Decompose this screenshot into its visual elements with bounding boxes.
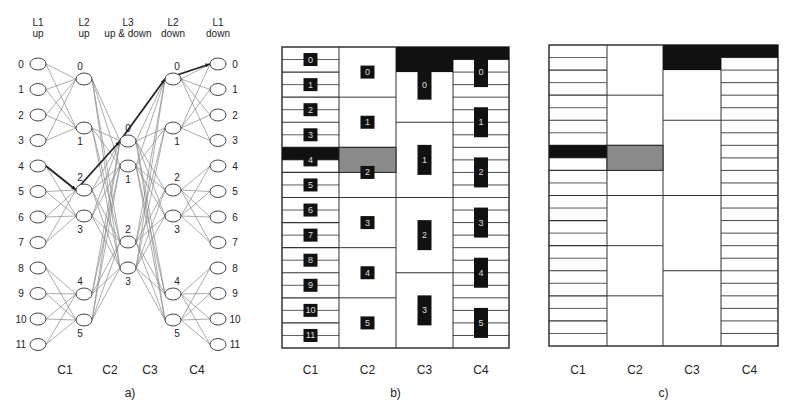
node-l2-up [76,184,92,196]
column-label: C2 [102,363,118,377]
node-label-l1-up: 11 [16,339,27,350]
node-l1-up [30,211,46,223]
node-l1-down [210,186,226,198]
c4-top-block [721,45,778,58]
stage-header-line1: L1 [212,17,224,28]
column-label: C4 [189,363,205,377]
stage-header-line1: L2 [167,17,179,28]
node-label-l1-up: 3 [18,135,24,146]
edge [92,166,120,320]
edge [136,141,165,320]
edge [181,115,210,128]
c3-label: 1 [422,155,427,165]
node-l2-down [165,184,181,196]
node-label-l1-down: 1 [232,84,238,95]
node-label-l1-down: 6 [232,212,238,223]
edge [46,128,76,141]
node-label-l2-down: 4 [174,276,180,287]
node-l1-down [210,211,226,223]
c1-label: 8 [308,255,313,265]
panel-caption: a) [125,386,136,400]
node-label-l1-up: 0 [18,59,24,70]
c3-top-block [396,47,453,72]
node-label-l1-down: 7 [232,237,238,248]
c1-label: 6 [308,205,313,215]
node-label-l2-down: 3 [174,224,180,235]
node-l1-up [30,135,46,147]
edge [136,242,165,320]
edge [46,64,76,128]
node-label-l1-up: 9 [18,288,24,299]
c1-label: 0 [308,55,313,65]
column-label: C2 [627,363,643,377]
node-l2-up [76,122,92,134]
edge [46,115,76,128]
edge [46,190,76,217]
node-label-l1-down: 0 [232,59,238,70]
node-label-l2-up: 1 [77,136,83,147]
node-l1-down [210,135,226,147]
node-l1-up [30,58,46,70]
edge [46,216,76,243]
c1-label: 4 [308,155,313,165]
node-l2-up [76,210,92,222]
edge [136,166,165,320]
panel-a-network-diagram: L1upL2upL3up & downL2downL1down012345678… [15,17,241,401]
panel-caption: b) [390,386,401,400]
column-label: C2 [360,363,376,377]
grid-lines [282,47,509,348]
panel-b-labeled-grid: 012345678910110123450123012345C1C2C3C4b) [282,47,509,400]
node-label-l1-down: 10 [229,314,241,325]
c2-label: 1 [365,117,370,127]
c1-label: 9 [308,280,313,290]
node-label-l1-down: 8 [232,263,238,274]
node-l1-down [210,84,226,96]
panel-caption: c) [659,386,669,400]
node-label-l2-down: 0 [174,61,180,72]
c4-label: 5 [478,318,483,328]
edge [136,79,165,141]
c1-label: 3 [308,130,313,140]
node-l1-down [210,160,226,172]
node-label-l1-down: 2 [232,110,238,121]
node-l1-up [30,262,46,274]
node-l1-down [210,58,226,70]
c3-label: 0 [422,80,427,90]
edge [181,166,210,190]
node-l2-down [165,210,181,222]
node-label-l1-down: 11 [230,339,241,350]
stage-header-line2: up [32,28,44,39]
column-label: C1 [57,363,73,377]
stage-header-line2: up [78,28,90,39]
edge [136,128,165,141]
c4-label: 3 [478,218,483,228]
node-l3 [120,160,136,172]
node-label-l1-up: 1 [18,84,24,95]
node-label-l3: 1 [125,174,131,185]
figure: L1upL2upL3up & downL2downL1down012345678… [0,0,798,417]
node-label-l2-down: 1 [174,136,180,147]
node-l1-up [30,237,46,249]
column-label: C1 [303,363,319,377]
edges [46,64,210,345]
node-l3 [120,262,136,274]
c3-label: 2 [422,230,427,240]
node-l2-down [165,122,181,134]
node-l1-down [210,313,226,325]
c1-highlight-block [549,145,607,158]
column-label: C4 [742,363,758,377]
stage-header-line2: down [206,28,230,39]
column-label: C4 [473,363,489,377]
node-label-l2-up: 0 [77,61,83,72]
node-l2-down [165,73,181,85]
edge [181,268,210,294]
column-label: C3 [417,363,433,377]
node-label-l2-down: 5 [174,328,180,339]
c4-label: 4 [478,268,483,278]
node-label-l3: 0 [125,123,131,134]
node-l2-up [76,314,92,326]
c2-label: 5 [365,318,370,328]
node-l1-up [30,84,46,96]
node-label-l1-up: 7 [18,237,24,248]
node-l1-down [210,339,226,351]
